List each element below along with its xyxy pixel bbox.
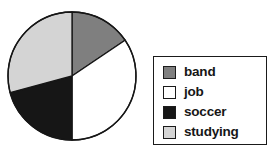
legend-label-studying: studying <box>184 125 239 139</box>
legend-swatch-job <box>163 86 176 99</box>
legend-item-list: bandjobsoccerstudying <box>163 62 263 142</box>
legend-label-job: job <box>184 85 204 99</box>
chart-legend: bandjobsoccerstudying <box>153 56 267 145</box>
legend-swatch-studying <box>163 126 176 139</box>
pie-chart-svg <box>6 10 138 142</box>
legend-item-job[interactable]: job <box>163 82 263 102</box>
legend-item-soccer[interactable]: soccer <box>163 102 263 122</box>
legend-swatch-band <box>163 66 176 79</box>
pie-chart-plot-area <box>6 10 138 142</box>
pie-chart-figure: bandjobsoccerstudying <box>0 0 272 151</box>
legend-label-band: band <box>184 65 215 79</box>
legend-swatch-soccer <box>163 106 176 119</box>
legend-item-studying[interactable]: studying <box>163 122 263 142</box>
legend-label-soccer: soccer <box>184 105 226 119</box>
legend-item-band[interactable]: band <box>163 62 263 82</box>
